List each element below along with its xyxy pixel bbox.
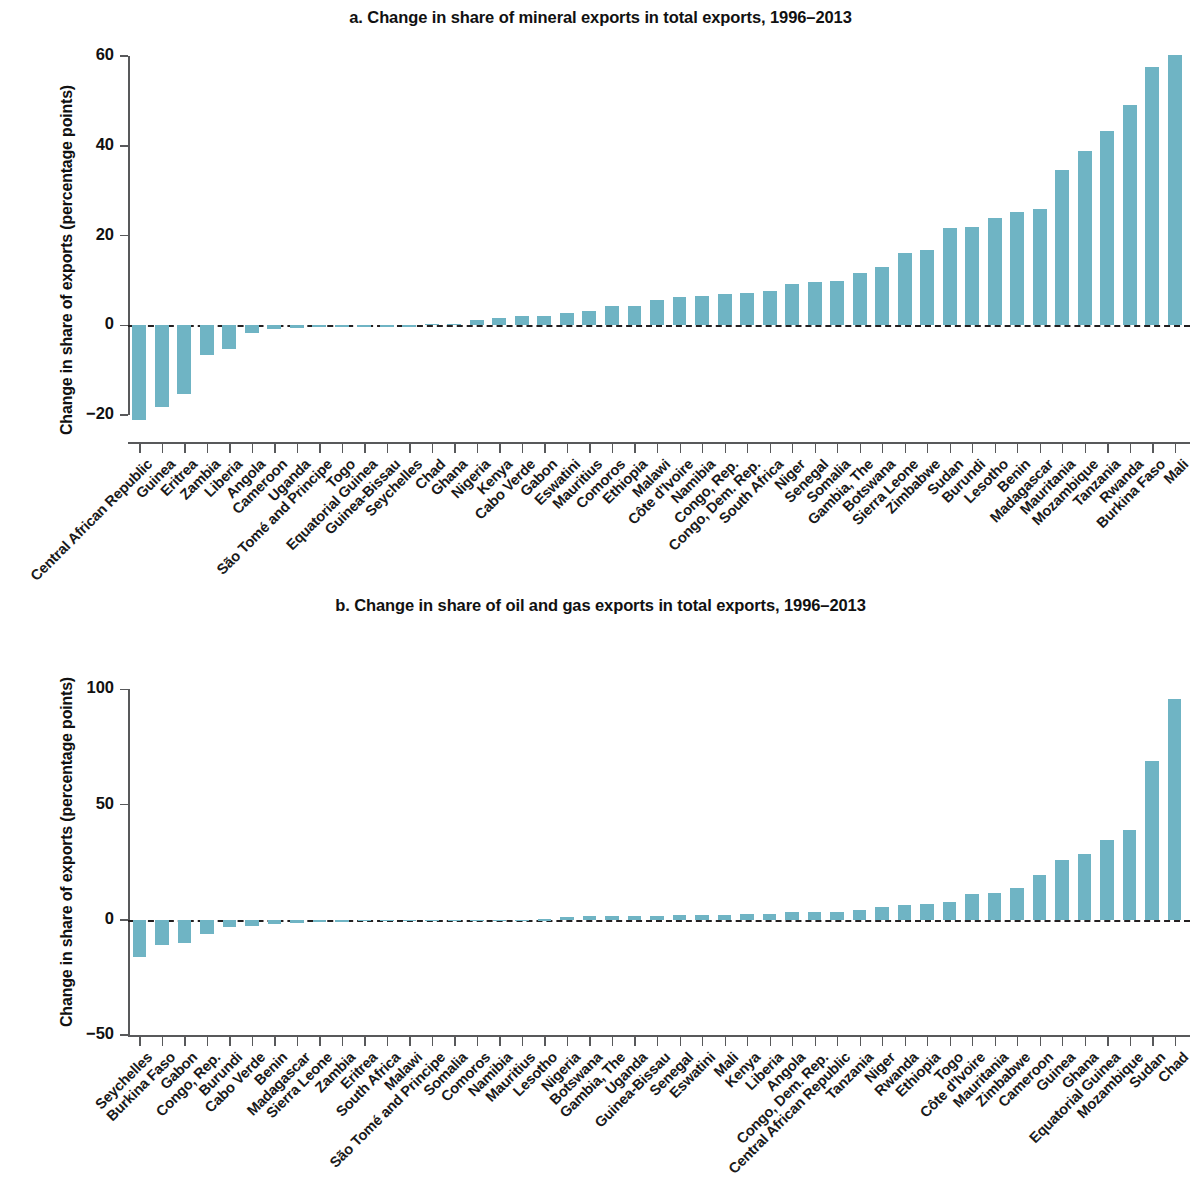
x-tick-mark	[680, 1037, 681, 1046]
y-tick-label: 50	[64, 794, 114, 813]
x-tick-mark	[1062, 1037, 1063, 1046]
x-tick-mark	[1130, 444, 1131, 453]
bar	[605, 306, 619, 325]
bar	[425, 324, 439, 326]
bar	[200, 920, 214, 934]
bar	[515, 920, 529, 922]
y-tick-label: −50	[64, 1024, 114, 1043]
bar	[673, 297, 687, 326]
bar	[740, 293, 754, 325]
bar	[335, 325, 349, 327]
bar	[245, 920, 259, 926]
bar	[650, 300, 664, 326]
bar	[425, 920, 439, 922]
x-tick-mark	[612, 444, 613, 453]
x-tick-mark	[454, 1037, 455, 1046]
y-tick-mark	[120, 1034, 128, 1036]
bar	[380, 325, 394, 327]
bar	[560, 917, 574, 920]
bar	[583, 916, 597, 919]
x-tick-mark	[544, 1037, 545, 1046]
y-tick-label: 40	[64, 135, 114, 154]
x-tick-mark	[927, 444, 928, 453]
x-tick-mark	[184, 444, 185, 453]
bar	[222, 325, 236, 348]
y-tick-mark	[120, 919, 128, 921]
x-tick-mark	[522, 1037, 523, 1046]
bar	[853, 273, 867, 326]
x-tick-mark	[770, 444, 771, 453]
y-tick-label: 0	[64, 909, 114, 928]
bar	[1100, 840, 1114, 920]
panel-b-oil-gas-exports: b. Change in share of oil and gas export…	[0, 580, 1201, 1161]
x-tick-mark	[1175, 444, 1176, 453]
bar	[965, 227, 979, 326]
x-tick-mark	[634, 444, 635, 453]
x-tick-mark	[770, 1037, 771, 1046]
x-tick-mark	[882, 1037, 883, 1046]
bar	[830, 912, 844, 920]
x-tick-mark	[274, 444, 275, 453]
x-tick-mark	[815, 1037, 816, 1046]
x-tick-mark	[905, 1037, 906, 1046]
x-tick-mark	[1040, 444, 1041, 453]
bar	[447, 324, 461, 326]
x-tick-mark	[972, 1037, 973, 1046]
x-tick-mark	[725, 1037, 726, 1046]
y-tick-label: 100	[64, 678, 114, 697]
x-tick-mark	[432, 1037, 433, 1046]
bar	[1055, 170, 1069, 325]
x-tick-mark	[342, 1037, 343, 1046]
x-tick-mark	[1062, 444, 1063, 453]
y-axis-line	[128, 689, 130, 1035]
zero-reference-line	[128, 920, 1190, 922]
x-tick-mark	[995, 1037, 996, 1046]
bar	[515, 316, 529, 325]
x-tick-mark	[139, 1037, 140, 1046]
x-tick-mark	[297, 444, 298, 453]
x-tick-mark	[972, 444, 973, 453]
x-tick-mark	[387, 444, 388, 453]
bar	[1033, 209, 1047, 325]
bar	[628, 916, 642, 920]
x-tick-mark	[747, 444, 748, 453]
x-tick-mark	[297, 1037, 298, 1046]
bar	[358, 920, 372, 922]
bar	[470, 320, 484, 325]
x-tick-mark	[184, 1037, 185, 1046]
x-axis-category-label: Central African Republic	[28, 456, 156, 584]
y-tick-label: −20	[64, 404, 114, 423]
x-tick-mark	[1175, 1037, 1176, 1046]
panel-a-mineral-exports: a. Change in share of mineral exports in…	[0, 0, 1201, 580]
y-tick-mark	[120, 145, 128, 147]
bar	[267, 325, 281, 329]
x-tick-mark	[792, 444, 793, 453]
x-tick-mark	[319, 1037, 320, 1046]
y-tick-mark	[120, 55, 128, 57]
panel-b-plot: Change in share of exports (percentage p…	[0, 615, 1201, 1155]
x-tick-mark	[409, 444, 410, 453]
bar	[470, 920, 484, 922]
bar	[448, 920, 462, 922]
x-tick-mark	[342, 444, 343, 453]
x-tick-mark	[589, 1037, 590, 1046]
bar	[988, 218, 1002, 325]
x-tick-mark	[207, 444, 208, 453]
x-tick-mark	[1130, 1037, 1131, 1046]
x-tick-mark	[1152, 1037, 1153, 1046]
bar	[875, 267, 889, 325]
bar	[223, 920, 237, 927]
bar	[1123, 105, 1137, 325]
bar	[965, 894, 979, 919]
x-tick-mark	[319, 444, 320, 453]
x-tick-mark	[409, 1037, 410, 1046]
x-tick-mark	[139, 444, 140, 453]
x-tick-mark	[837, 1037, 838, 1046]
bar	[853, 910, 867, 920]
bar	[312, 325, 326, 327]
x-tick-mark	[702, 1037, 703, 1046]
x-tick-mark	[387, 1037, 388, 1046]
x-tick-mark	[680, 444, 681, 453]
bar	[650, 916, 664, 920]
bar	[628, 306, 642, 326]
